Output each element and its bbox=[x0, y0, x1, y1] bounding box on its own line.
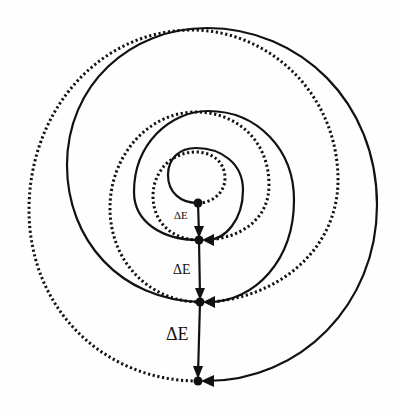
energy-level-node-0 bbox=[194, 199, 203, 208]
energy-step-2 bbox=[199, 240, 200, 296]
middle-solid-spiral bbox=[134, 111, 294, 302]
diagram-canvas: ΔE ΔE ΔE bbox=[0, 0, 401, 415]
energy-level-node-1 bbox=[195, 236, 204, 245]
energy-level-node-2 bbox=[196, 298, 205, 307]
arrow-left-icon bbox=[202, 234, 214, 246]
inner-solid-spiral bbox=[168, 148, 243, 240]
arrow-left-icon bbox=[201, 375, 214, 387]
delta-e-label-1: ΔE bbox=[174, 209, 188, 221]
arrow-left-icon bbox=[203, 296, 215, 308]
energy-step-3 bbox=[198, 302, 200, 375]
outer-solid-spiral bbox=[67, 28, 377, 381]
delta-e-label-3: ΔE bbox=[166, 324, 189, 344]
energy-spiral-diagram: ΔE ΔE ΔE bbox=[0, 0, 401, 415]
delta-e-label-2: ΔE bbox=[173, 262, 191, 277]
inner-dotted-spiral bbox=[153, 152, 225, 240]
energy-level-node-3 bbox=[194, 377, 203, 386]
